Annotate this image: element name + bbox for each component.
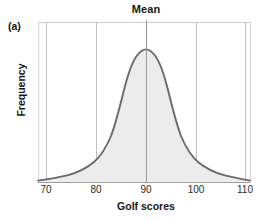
figure-panel: Mean (a) 70 80 90 100 110 Frequency Golf…: [0, 0, 270, 220]
x-tick-label-110: 110: [230, 184, 260, 195]
x-tick-label-70: 70: [31, 184, 61, 195]
x-tick-label-90: 90: [131, 184, 161, 195]
x-axis-label: Golf scores: [22, 200, 270, 212]
distribution-area: [38, 49, 250, 182]
x-tick-label-100: 100: [181, 184, 211, 195]
y-axis-label: Frequency: [15, 50, 27, 130]
x-tick-label-80: 80: [81, 184, 111, 195]
